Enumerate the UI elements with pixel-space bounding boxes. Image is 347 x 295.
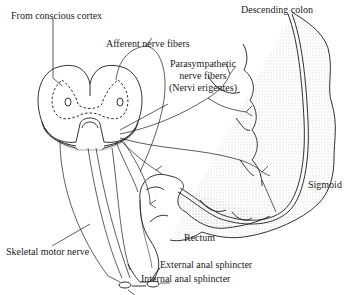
label-parasympathetic-line3: (Nervi erigentes)	[156, 82, 250, 94]
label-parasympathetic-line1: Parasympathetic	[156, 58, 250, 70]
label-external-anal-sphincter: External anal sphincter	[160, 259, 252, 271]
label-afferent-nerve-fibers: Afferent nerve fibers	[106, 38, 190, 50]
label-descending-colon: Descending colon	[241, 4, 313, 16]
colon	[119, 12, 335, 288]
label-sigmoid: Sigmoid	[308, 179, 342, 191]
label-rectum: Rectum	[184, 232, 215, 244]
label-skeletal-motor-nerve: Skeletal motor nerve	[6, 246, 89, 258]
label-parasympathetic-line2: nerve fibers	[156, 70, 250, 82]
label-internal-anal-sphincter: Internal anal sphincter	[141, 273, 230, 285]
label-conscious-cortex: From conscious cortex	[11, 10, 102, 22]
label-parasympathetic: Parasympathetic nerve fibers (Nervi erig…	[156, 58, 250, 94]
diagram-canvas: From conscious cortex Afferent nerve fib…	[0, 0, 347, 295]
